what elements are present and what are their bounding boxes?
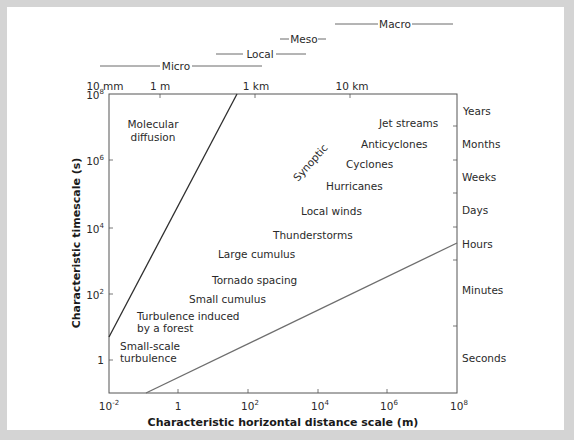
right-axis-labels: Years Months Weeks Days Hours Minutes Se…: [462, 105, 506, 364]
bottom-axis-labels: 10-2 1 102 104 106 108: [99, 399, 468, 412]
label-diffusion: diffusion: [131, 131, 176, 143]
scale-label-meso: Meso: [290, 33, 317, 45]
y-axis-title: Characteristic timescale (s): [70, 158, 83, 329]
label-large-cumulus: Large cumulus: [218, 248, 295, 260]
label-synoptic: Synoptic: [291, 141, 330, 183]
x-tick-1: 1: [175, 400, 182, 412]
label-turbulence-forest-2: by a forest: [137, 322, 193, 334]
y-tick-1e4: 104: [86, 222, 104, 235]
label-hurricanes: Hurricanes: [326, 180, 383, 192]
label-small-cumulus: Small cumulus: [189, 293, 266, 305]
label-turbulence-forest-1: Turbulence induced: [136, 310, 240, 322]
scale-ranges: Macro Meso Local Micro: [100, 18, 453, 72]
left-axis-labels: 108 106 104 102 1: [86, 88, 104, 366]
chart-svg: Macro Meso Local Micro 10 mm 1 m 1 km 10…: [0, 0, 574, 440]
right-label-days: Days: [462, 204, 488, 216]
top-axis-labels: 10 mm 1 m 1 km 10 km: [86, 80, 368, 92]
top-tick-1m: 1 m: [150, 80, 170, 92]
right-label-months: Months: [462, 138, 500, 150]
x-tick-1e4: 104: [311, 399, 329, 412]
label-anticyclones: Anticyclones: [361, 138, 428, 150]
x-tick-1e6: 106: [380, 399, 398, 412]
label-small-scale-1: Small-scale: [120, 340, 180, 352]
scale-label-macro: Macro: [379, 18, 411, 30]
scale-label-micro: Micro: [162, 60, 190, 72]
y-tick-1: 1: [97, 354, 104, 366]
right-ticks: [453, 126, 457, 326]
right-label-minutes: Minutes: [462, 284, 503, 296]
y-tick-1e2: 102: [86, 288, 104, 301]
x-tick-1e-2: 10-2: [99, 399, 119, 412]
bottom-ticks: [178, 389, 387, 393]
top-ticks: [160, 94, 350, 98]
label-jet-streams: Jet streams: [378, 117, 438, 129]
x-axis-title: Characteristic horizontal distance scale…: [148, 416, 419, 429]
top-tick-1km: 1 km: [243, 80, 269, 92]
label-small-scale-2: turbulence: [120, 352, 177, 364]
top-tick-10km: 10 km: [335, 80, 368, 92]
right-label-seconds: Seconds: [462, 352, 506, 364]
x-tick-1e8: 108: [450, 399, 468, 412]
label-thunderstorms: Thunderstorms: [272, 229, 353, 241]
phenomena-labels: Molecular diffusion Jet streams Anticycl…: [120, 117, 438, 364]
y-tick-1e6: 106: [86, 154, 104, 167]
right-label-years: Years: [462, 105, 491, 117]
y-tick-1e8: 108: [86, 88, 104, 101]
scale-label-local: Local: [246, 48, 273, 60]
label-tornado-spacing: Tornado spacing: [211, 274, 297, 286]
x-tick-1e2: 102: [241, 399, 259, 412]
right-label-hours: Hours: [462, 238, 493, 250]
label-local-winds: Local winds: [301, 205, 362, 217]
label-molecular: Molecular: [128, 118, 180, 130]
label-cyclones: Cyclones: [346, 158, 393, 170]
right-label-weeks: Weeks: [462, 171, 496, 183]
